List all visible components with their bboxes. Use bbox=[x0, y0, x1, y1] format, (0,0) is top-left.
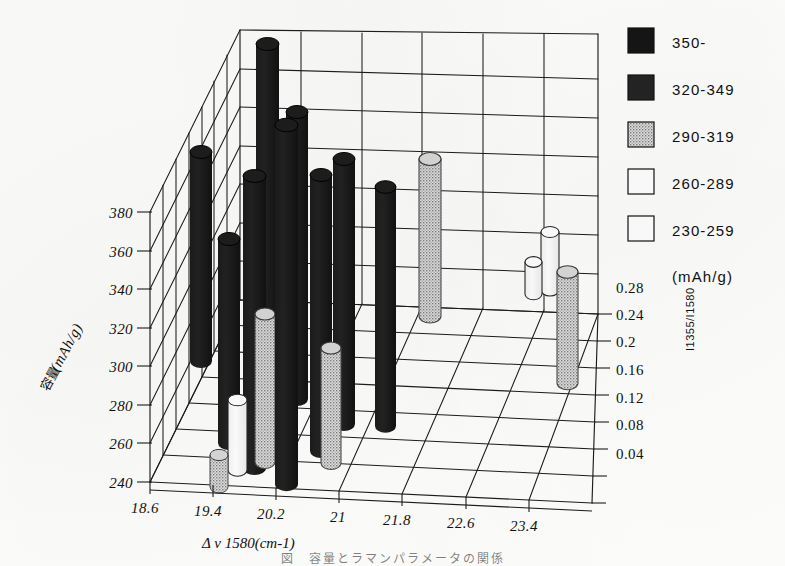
y-tick-360: 360 bbox=[108, 244, 133, 260]
z-tick-0-12: 0.12 bbox=[616, 390, 644, 406]
y-axis: 380 360 340 320 300 280 260 240 容量 (mAh/… bbox=[37, 205, 152, 491]
legend-label-260-289: 260-289 bbox=[672, 175, 735, 192]
bar-cylinder bbox=[275, 118, 298, 491]
legend-unit: (mAh/g) bbox=[672, 268, 733, 285]
bar-cylinder bbox=[321, 342, 341, 470]
y-tick-260: 260 bbox=[109, 436, 133, 452]
y-tick-280: 280 bbox=[109, 398, 133, 414]
chart-canvas: 380 360 340 320 300 280 260 240 容量 (mAh/… bbox=[0, 0, 785, 566]
z-axis: 0.28 0.24 0.2 0.16 0.12 0.08 0.04 I1355/… bbox=[592, 280, 696, 503]
bar-cylinder bbox=[375, 181, 396, 433]
x-tick-20-2: 20.2 bbox=[257, 506, 285, 522]
legend-label-350: 350- bbox=[672, 34, 706, 51]
legend: 350- 320-349 290-319 260-289 230-259 (mA… bbox=[628, 28, 735, 285]
z-tick-0-08: 0.08 bbox=[616, 417, 644, 433]
legend-label-290-319: 290-319 bbox=[672, 128, 735, 145]
x-tick-21: 21 bbox=[330, 509, 346, 525]
y-tick-320: 320 bbox=[108, 321, 133, 337]
bar-cylinder bbox=[541, 227, 559, 297]
bar-cylinder bbox=[190, 146, 212, 369]
x-tick-18-6: 18.6 bbox=[131, 500, 159, 516]
legend-label-320-349: 320-349 bbox=[672, 81, 735, 98]
figure-3d-column-chart: 380 360 340 320 300 280 260 240 容量 (mAh/… bbox=[0, 0, 785, 566]
legend-label-230-259: 230-259 bbox=[672, 222, 735, 239]
z-tick-0-04: 0.04 bbox=[616, 446, 644, 462]
x-tick-22-6: 22.6 bbox=[447, 515, 475, 531]
y-axis-title-unit: (mAh/g) bbox=[47, 321, 86, 375]
z-tick-0-28: 0.28 bbox=[616, 280, 644, 296]
y-tick-340: 340 bbox=[108, 282, 133, 298]
figure-caption: 図 容量とラマンパラメータの関係 bbox=[0, 552, 785, 566]
bar-cylinder bbox=[525, 257, 542, 300]
legend-swatch-230-259 bbox=[628, 216, 654, 241]
bar-cylinder bbox=[228, 394, 247, 476]
x-axis-title: Δ ν 1580(cm-1) bbox=[201, 535, 295, 552]
z-axis-title: I1355/I1580 bbox=[684, 287, 696, 351]
legend-swatch-260-289 bbox=[628, 169, 654, 194]
y-tick-300: 300 bbox=[108, 359, 133, 375]
bar-group bbox=[190, 38, 578, 494]
legend-swatch-350 bbox=[628, 28, 654, 53]
y-tick-380: 380 bbox=[108, 205, 133, 221]
bar-cylinder bbox=[557, 266, 578, 390]
legend-swatch-290-319 bbox=[628, 122, 654, 147]
bar-cylinder bbox=[419, 153, 441, 324]
x-tick-23-4: 23.4 bbox=[510, 518, 538, 534]
z-tick-0-24: 0.24 bbox=[616, 307, 644, 323]
y-tick-240: 240 bbox=[109, 475, 133, 491]
z-tick-0-2: 0.2 bbox=[616, 334, 636, 350]
bar-cylinder bbox=[255, 308, 275, 469]
x-tick-19-4: 19.4 bbox=[194, 503, 222, 519]
legend-swatch-320-349 bbox=[628, 75, 654, 100]
z-tick-0-16: 0.16 bbox=[616, 362, 644, 378]
x-tick-21-8: 21.8 bbox=[383, 512, 411, 528]
